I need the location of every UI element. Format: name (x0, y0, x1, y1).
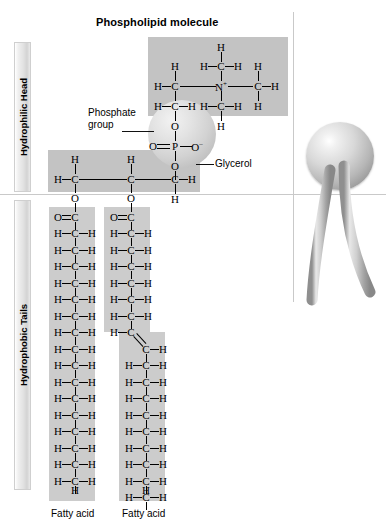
left-tail-h-left-5: H (54, 310, 62, 321)
right-tail-lower-h-right-5: H (159, 442, 167, 453)
choline-upper-h-right: H (234, 61, 242, 72)
right-tail-upper-h-left-0: H (110, 228, 118, 239)
left-tail-h-right-15: H (88, 475, 96, 486)
left-tail-h-left-15: H (54, 475, 62, 486)
right-tail-lower-bond-right-5 (150, 448, 159, 449)
left-tail-bond-right-8 (79, 365, 88, 366)
right-tail-upper-c-0: C (127, 228, 134, 239)
right-kink-h-right: H (159, 343, 167, 354)
left-tail-bond-left-9 (62, 382, 71, 383)
region-bar-hydrophilic-head: Hydrophilic Head (14, 42, 31, 192)
left-tail-h-left-0: H (54, 228, 62, 239)
left-tail-h-left-7: H (54, 343, 62, 354)
right-tail-lower-h-left-7: H (125, 475, 133, 486)
left-tail-bond-left-15 (62, 481, 71, 482)
right-tail-upper-h-right-2: H (144, 261, 152, 272)
right-tail-upper-bond-left-4 (118, 299, 127, 300)
right-tail-upper-bond-right-4 (135, 299, 144, 300)
right-tail-upper-h-right-4: H (144, 294, 152, 305)
right-tail-upper-bond-right-5 (135, 316, 144, 317)
bond-dbl-lower (157, 148, 170, 149)
left-tail-bond-right-6 (79, 332, 88, 333)
left-tail-bond-right-9 (79, 382, 88, 383)
right-tail-lower-h-right-3: H (159, 409, 167, 420)
right-tail-lower-c-6: C (142, 459, 149, 470)
left-tail-c-11: C (71, 409, 78, 420)
right-tail-lower-bond-left-1 (133, 382, 142, 383)
left-tail-h-left-2: H (54, 261, 62, 272)
right-tail-upper-bond-left-1 (118, 250, 127, 251)
left-tail-bond-left-4 (62, 299, 71, 300)
left-tail-carbonyl-c: C (71, 212, 78, 223)
left-tail-c-5: C (71, 310, 78, 321)
right-tail-lower-bond-right-3 (150, 415, 159, 416)
choline-lowmid-c: C (217, 101, 224, 112)
left-tail-h-left-12: H (54, 426, 62, 437)
right-tail-upper-bond-right-0 (135, 233, 144, 234)
left-tail-terminal-h: H (71, 485, 79, 496)
left-tail-bond-left-0 (62, 233, 71, 234)
glycerol-c2: C (127, 174, 134, 185)
glycerol-c1: C (71, 174, 78, 185)
right-tail-dbl-l (118, 219, 127, 220)
right-tail-dbl-u (118, 215, 127, 216)
left-tail-h-right-12: H (88, 426, 96, 437)
left-tail-bond-right-14 (79, 464, 88, 465)
bond-dbl-upper (157, 144, 170, 145)
glycerol-c1-top-h: H (71, 154, 79, 165)
left-tail-h-left-11: H (54, 409, 62, 420)
choline-lowmid-h-left: H (200, 101, 208, 112)
model-tail-right (344, 166, 370, 292)
left-tail-bond-left-2 (62, 266, 71, 267)
region-label-hydrophilic-head: Hydrophilic Head (17, 78, 28, 156)
bond-c3-rightH (179, 179, 188, 180)
right-tail-upper-bond-left-2 (118, 266, 127, 267)
right-tail-lower-h-left-4: H (125, 426, 133, 437)
right-tail-upper-h-left-2: H (110, 261, 118, 272)
right-tail-lower-h-right-4: H (159, 426, 167, 437)
left-tail-bond-left-8 (62, 365, 71, 366)
left-tail-bond-right-11 (79, 415, 88, 416)
bond-lm-right (225, 106, 234, 107)
left-tail-h-left-4: H (54, 294, 62, 305)
right-tail-lower-c-4: C (142, 426, 149, 437)
glycerol-c1-o: O (71, 193, 79, 204)
left-tail-h-right-6: H (88, 327, 96, 338)
right-kink-h-left: H (110, 327, 118, 338)
left-tail-h-left-3: H (54, 277, 62, 288)
left-tail-bond-right-7 (79, 349, 88, 350)
left-tail-bond-left-7 (62, 349, 71, 350)
right-tail-lower-bond-right-4 (150, 431, 159, 432)
region-bar-hydrophobic-tails: Hydrophobic Tails (14, 200, 31, 490)
left-tail-c-10: C (71, 393, 78, 404)
left-tail-c-9: C (71, 376, 78, 387)
right-tail-lower-h-left-2: H (125, 393, 133, 404)
choline-left-c: C (171, 81, 178, 92)
left-tail-h-right-0: H (88, 228, 96, 239)
left-tail-h-left-1: H (54, 244, 62, 255)
leader-phosphate (122, 131, 154, 132)
left-tail-h-right-13: H (88, 442, 96, 453)
right-tail-lower-bond-right-2 (150, 398, 159, 399)
right-tail-lower-h-right-1: H (159, 376, 167, 387)
left-tail-c-0: C (71, 228, 78, 239)
right-tail-lower-bond-left-6 (133, 464, 142, 465)
caption-right-fatty-acid: Fatty acid (122, 508, 165, 519)
region-label-hydrophobic-tails: Hydrophobic Tails (17, 304, 28, 386)
vertical-guide-rule (293, 12, 294, 302)
choline-lower-left-c: C (171, 101, 178, 112)
right-tail-upper-h-right-3: H (144, 277, 152, 288)
right-tail-lower-h-right-7: H (159, 475, 167, 486)
right-tail-lower-bond-right-0 (150, 365, 159, 366)
right-tail-lower-c-5: C (142, 442, 149, 453)
glycerol-c1-left-h: H (54, 174, 62, 185)
left-tail-bond-left-5 (62, 316, 71, 317)
left-tail-h-left-6: H (54, 327, 62, 338)
right-tail-lower-bond-left-8 (133, 497, 142, 498)
oxygen-charge: – (199, 140, 203, 148)
right-tail-lower-h-right-8: H (159, 492, 167, 503)
left-tail-dbl-u (62, 215, 71, 216)
right-tail-lower-c-2: C (142, 393, 149, 404)
left-tail-bond-right-2 (79, 266, 88, 267)
bond-leftC-up (175, 71, 176, 81)
